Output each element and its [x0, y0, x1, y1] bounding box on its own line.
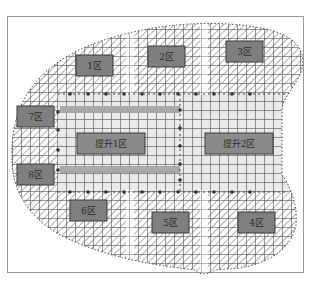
- lift-zone-2: 提升2区: [205, 133, 273, 154]
- zone-3: 3区: [226, 41, 263, 62]
- zone-7: 7区: [17, 106, 54, 127]
- zone-2: 2区: [148, 46, 185, 67]
- zone-4-label: 4区: [249, 218, 264, 228]
- zone-3-label: 3区: [237, 47, 252, 57]
- beam-band-upper: [60, 106, 180, 113]
- zone-5: 5区: [152, 212, 189, 233]
- lift-zone-1-label: 提升1区: [95, 139, 128, 149]
- zone-2-label: 2区: [159, 52, 174, 62]
- lift-zone-1: 提升1区: [77, 133, 145, 154]
- zoning-diagram: 1区 2区 3区 7区 8区 6区 5区 4区: [0, 0, 312, 284]
- zone-5-label: 5区: [163, 218, 178, 228]
- zone-4: 4区: [238, 212, 275, 233]
- zone-1-label: 1区: [87, 61, 102, 71]
- zone-1: 1区: [76, 55, 113, 76]
- lift-zone-2-label: 提升2区: [223, 139, 256, 149]
- zone-7-label: 7区: [28, 112, 43, 122]
- zone-6-label: 6区: [81, 206, 96, 216]
- zone-8: 8区: [17, 164, 54, 185]
- beam-band-lower: [60, 166, 180, 173]
- zone-8-label: 8区: [28, 170, 43, 180]
- zone-6: 6区: [70, 200, 107, 221]
